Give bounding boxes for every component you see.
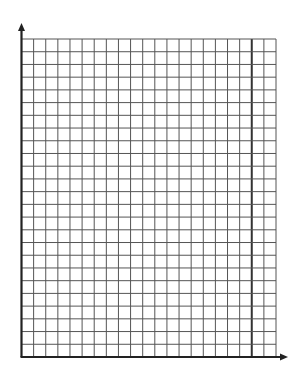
y-axis-arrow-icon	[18, 23, 25, 31]
grid-lines	[22, 39, 277, 357]
x-axis-arrow-icon	[280, 354, 288, 361]
graph-paper	[0, 0, 299, 379]
